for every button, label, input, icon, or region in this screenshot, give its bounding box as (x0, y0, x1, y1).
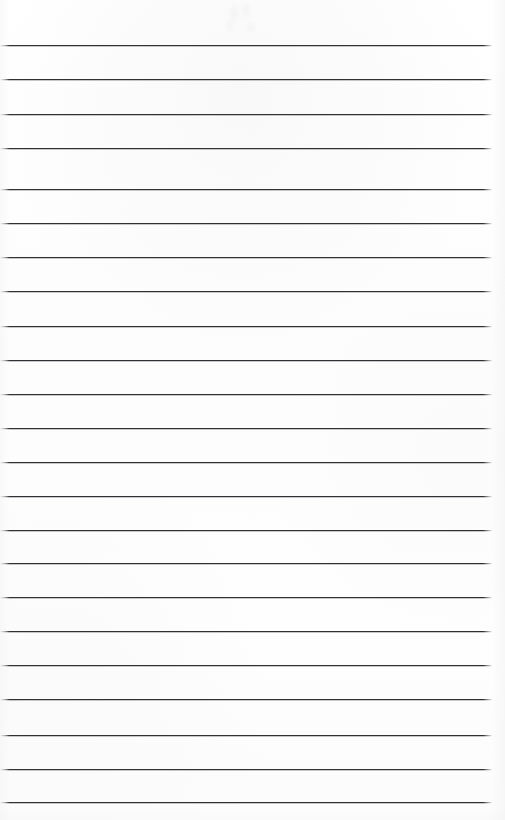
handwriting-content-layer (0, 0, 505, 820)
scanned-page (0, 0, 505, 820)
